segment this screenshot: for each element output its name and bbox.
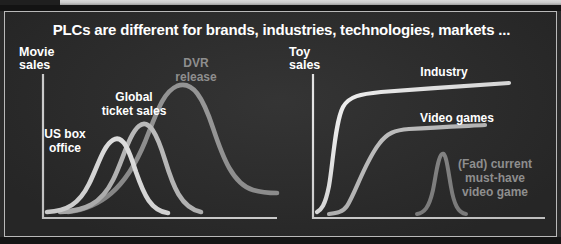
label-us-box-office: US box office [33, 127, 97, 155]
label-dvr-release: DVR release [160, 56, 232, 84]
slide-canvas: PLCs are different for brands, industrie… [0, 0, 561, 244]
axis-label-movie-sales: Movie sales [19, 46, 54, 72]
label-video-games: Video games [409, 111, 505, 125]
chart-toy-sales: Toy sales Industry Video games (Fad) cur… [281, 12, 557, 237]
label-fad-current-must-have-video-game: (Fad) current must-have video game [445, 157, 545, 199]
bottom-dark-band [0, 237, 561, 244]
axis-label-toy-sales: Toy sales [289, 46, 320, 72]
page-title: PLCs are different for brands, industrie… [5, 21, 557, 38]
slide-panel: PLCs are different for brands, industrie… [4, 11, 557, 237]
label-industry: Industry [403, 65, 485, 79]
label-global-ticket-sales: Global ticket sales [88, 90, 180, 118]
chart-movie-sales: Movie sales US box office Global ticket … [5, 12, 285, 237]
